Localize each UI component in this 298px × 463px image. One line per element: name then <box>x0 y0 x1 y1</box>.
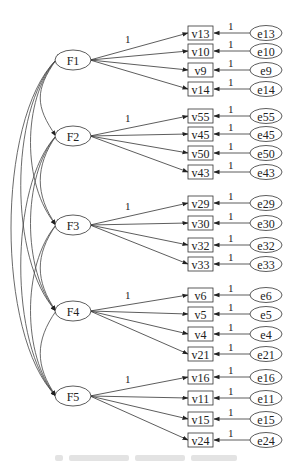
factor-group-f5: 1v161e16v111e11v151e15v241e24F5 <box>55 364 282 448</box>
error-label: e55 <box>257 110 274 124</box>
error-path-label: 1 <box>228 282 234 294</box>
indicator-label: v24 <box>192 434 210 448</box>
loading-path <box>90 225 188 245</box>
factor-label: F3 <box>67 219 80 233</box>
loading-path <box>90 311 188 314</box>
indicator-label: v32 <box>192 239 210 253</box>
error-label: e32 <box>257 239 274 253</box>
error-label: e10 <box>257 45 274 59</box>
error-path-label: 1 <box>228 140 234 152</box>
error-path-label: 1 <box>228 301 234 313</box>
indicator-label: v9 <box>195 64 207 78</box>
loading-label: 1 <box>125 200 131 212</box>
loading-label: 1 <box>125 373 131 385</box>
error-label: e21 <box>257 348 274 362</box>
indicator-label: v45 <box>192 128 210 142</box>
factor-layer: 1v131e13v101e10v91e9v141e14F11v551e55v45… <box>55 20 282 448</box>
error-path-label: 1 <box>228 341 234 353</box>
loading-path <box>90 136 188 153</box>
loading-path <box>90 396 188 398</box>
loading-path <box>90 225 188 264</box>
covariance-arcs <box>11 60 56 396</box>
error-path-label: 1 <box>228 427 234 439</box>
indicator-label: v13 <box>192 27 210 41</box>
indicator-label: v14 <box>192 83 210 97</box>
error-label: e14 <box>257 83 274 97</box>
error-label: e29 <box>257 197 274 211</box>
factor-group-f3: 1v291e29v301e30v321e32v331e33F3 <box>55 190 282 272</box>
sem-diagram: 1v131e13v101e10v91e9v141e14F11v551e55v45… <box>0 0 298 463</box>
error-path-label: 1 <box>228 251 234 263</box>
error-label: e30 <box>257 217 274 231</box>
loading-path <box>90 60 188 70</box>
loading-path <box>90 33 188 60</box>
error-label: e6 <box>260 289 271 303</box>
error-path-label: 1 <box>228 210 234 222</box>
indicator-label: v10 <box>192 45 210 59</box>
indicator-label: v11 <box>192 392 210 406</box>
loading-path <box>90 203 188 225</box>
loading-path <box>90 116 188 136</box>
figure-caption-illegible <box>55 448 245 458</box>
indicator-label: v29 <box>192 197 210 211</box>
indicator-label: v55 <box>192 110 210 124</box>
loading-path <box>90 60 188 89</box>
indicator-label: v21 <box>192 348 210 362</box>
loading-path <box>90 396 188 440</box>
factor-label: F1 <box>67 54 80 68</box>
error-label: e9 <box>260 64 271 78</box>
loading-label: 1 <box>125 289 131 301</box>
loading-path <box>90 295 188 311</box>
error-path-label: 1 <box>228 121 234 133</box>
factor-label: F2 <box>67 130 80 144</box>
factor-group-f2: 1v551e55v451e45v501e50v431e43F2 <box>55 103 282 180</box>
loading-label: 1 <box>125 112 131 124</box>
error-label: e15 <box>257 413 274 427</box>
error-label: e50 <box>257 147 274 161</box>
factor-group-f4: 1v61e6v51e5v41e4v211e21F4 <box>55 282 282 362</box>
error-path-label: 1 <box>228 406 234 418</box>
error-label: e4 <box>260 328 271 342</box>
covariance-arc-f4-f5 <box>40 311 56 396</box>
error-path-label: 1 <box>228 232 234 244</box>
error-label: e5 <box>260 308 271 322</box>
loading-label: 1 <box>125 33 131 45</box>
loading-path <box>90 311 188 354</box>
indicator-label: v16 <box>192 371 210 385</box>
loading-path <box>90 223 188 225</box>
error-label: e11 <box>258 392 275 406</box>
error-path-label: 1 <box>228 57 234 69</box>
indicator-label: v15 <box>192 413 210 427</box>
indicator-label: v43 <box>192 166 210 180</box>
error-path-label: 1 <box>228 364 234 376</box>
error-label: e16 <box>257 371 274 385</box>
error-path-label: 1 <box>228 103 234 115</box>
error-label: e43 <box>257 166 274 180</box>
indicator-label: v33 <box>192 258 210 272</box>
loading-path <box>90 396 188 419</box>
error-label: e24 <box>257 434 274 448</box>
indicator-label: v50 <box>192 147 210 161</box>
factor-group-f1: 1v131e13v101e10v91e9v141e14F1 <box>55 20 282 97</box>
loading-path <box>90 134 188 136</box>
indicator-label: v30 <box>192 217 210 231</box>
loading-path <box>90 136 188 172</box>
indicator-label: v5 <box>195 308 207 322</box>
error-label: e45 <box>257 128 274 142</box>
factor-label: F5 <box>67 390 80 404</box>
error-path-label: 1 <box>228 385 234 397</box>
covariance-arc-f1-f4 <box>21 60 56 311</box>
error-path-label: 1 <box>228 20 234 32</box>
error-path-label: 1 <box>228 190 234 202</box>
indicator-label: v4 <box>195 328 207 342</box>
error-label: e13 <box>257 27 274 41</box>
error-label: e33 <box>257 258 274 272</box>
error-path-label: 1 <box>228 159 234 171</box>
error-path-label: 1 <box>228 321 234 333</box>
error-path-label: 1 <box>228 76 234 88</box>
error-path-label: 1 <box>228 38 234 50</box>
loading-path <box>90 51 188 60</box>
loading-path <box>90 311 188 334</box>
factor-label: F4 <box>67 305 80 319</box>
loading-path <box>90 377 188 396</box>
